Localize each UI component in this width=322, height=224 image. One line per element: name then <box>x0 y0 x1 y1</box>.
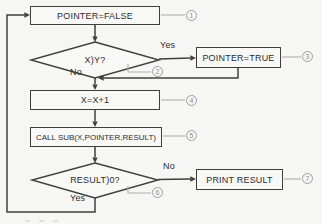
process-increment-x: X=X+1 <box>30 90 160 110</box>
step-badge-1: 1 <box>186 10 197 21</box>
branch-yes-top: Yes <box>160 40 175 50</box>
flowchart: POINTER=FALSE POINTER=TRUE X=X+1 CALL SU… <box>0 0 322 224</box>
process-print-result-label: PRINT RESULT <box>206 175 273 185</box>
step-badge-5: 5 <box>186 130 197 141</box>
step-badge-7: 7 <box>302 173 313 184</box>
scan-artifact <box>25 220 30 222</box>
edge-no-to-print <box>158 179 191 180</box>
decision-result-label: RESULT)0? <box>33 173 157 186</box>
process-print-result: PRINT RESULT <box>196 169 283 190</box>
process-pointer-false-label: POINTER=FALSE <box>57 11 133 21</box>
step-badge-3: 3 <box>302 51 313 62</box>
process-pointer-true: POINTER=TRUE <box>196 47 281 68</box>
process-call-sub-label: CALL SUB(X,POINTER,RESULT) <box>36 133 156 142</box>
process-pointer-false: POINTER=FALSE <box>30 6 160 25</box>
scan-artifact <box>39 220 44 222</box>
process-pointer-true-label: POINTER=TRUE <box>202 53 274 63</box>
step-badge-6: 6 <box>152 187 163 198</box>
decision-x-gt-y-label: X)Y? <box>35 53 155 66</box>
arrowhead-into-diamond1 <box>92 37 97 43</box>
arrowhead-into-diamond2 <box>92 158 97 164</box>
scan-artifact <box>53 220 58 222</box>
branch-no-top: No <box>70 67 82 77</box>
process-call-sub: CALL SUB(X,POINTER,RESULT) <box>30 127 162 147</box>
step-badge-2: 2 <box>152 66 163 77</box>
process-increment-x-label: X=X+1 <box>81 95 110 105</box>
branch-no-bottom: No <box>163 161 175 171</box>
branch-yes-bottom: Yes <box>70 193 85 203</box>
step-badge-4: 4 <box>186 95 197 106</box>
edge-yes-to-pointer-true <box>159 58 190 59</box>
